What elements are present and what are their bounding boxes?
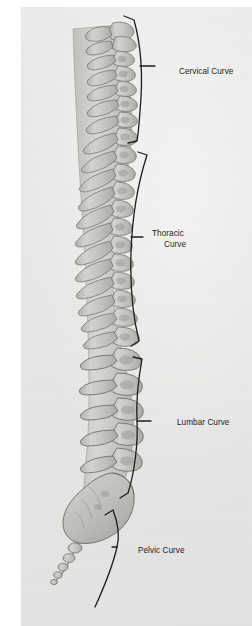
illustration-figure: Cervical Curve ThoracicCurve Lumbar Curv… (0, 0, 252, 626)
spine-artwork (51, 19, 144, 597)
sacrum-coccyx (51, 473, 135, 585)
label-thoracic-curve: ThoracicCurve (152, 229, 212, 250)
label-lumbar-curve: Lumbar Curve (177, 418, 229, 429)
label-thoracic-line1: Thoracic (152, 229, 184, 238)
label-thoracic-line2: Curve (152, 240, 212, 251)
label-cervical-curve: Cervical Curve (179, 67, 233, 78)
label-pelvic-curve: Pelvic Curve (138, 546, 185, 557)
cervical-vertebrae (86, 22, 138, 134)
vertebral-column-drawing (21, 7, 252, 626)
illustration-plate: Cervical Curve ThoracicCurve Lumbar Curv… (21, 7, 252, 626)
